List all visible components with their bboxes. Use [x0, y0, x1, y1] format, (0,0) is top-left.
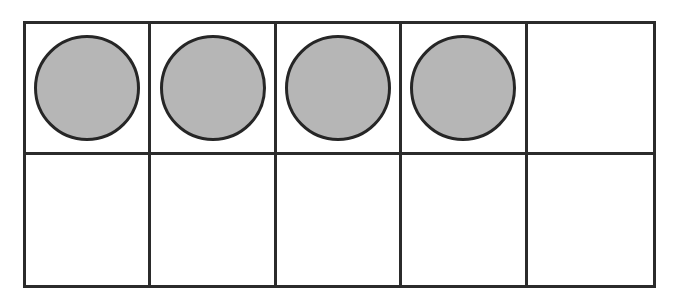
ten-frame-cell-r1c4[interactable] — [402, 24, 527, 155]
figure-canvas — [0, 0, 677, 301]
circle-counter-icon — [34, 35, 140, 141]
ten-frame-cell-r2c4[interactable] — [402, 155, 527, 286]
ten-frame-cell-r2c5[interactable] — [528, 155, 653, 286]
ten-frame-grid — [23, 21, 656, 288]
ten-frame-cell-r1c1[interactable] — [26, 24, 151, 155]
ten-frame-cell-r1c2[interactable] — [151, 24, 276, 155]
ten-frame-cell-r1c5[interactable] — [528, 24, 653, 155]
ten-frame-cell-r2c2[interactable] — [151, 155, 276, 286]
ten-frame-cell-r2c1[interactable] — [26, 155, 151, 286]
ten-frame-cell-r1c3[interactable] — [277, 24, 402, 155]
circle-counter-icon — [285, 35, 391, 141]
circle-counter-icon — [160, 35, 266, 141]
circle-counter-icon — [410, 35, 516, 141]
ten-frame-cell-r2c3[interactable] — [277, 155, 402, 286]
